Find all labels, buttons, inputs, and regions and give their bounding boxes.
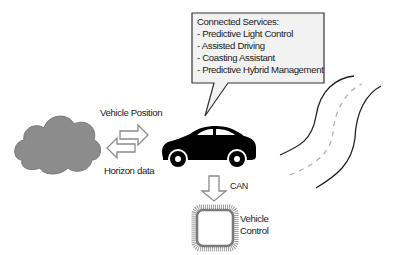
horizon-data-label: Horizon data bbox=[104, 165, 154, 176]
callout-item-coasting-assistant: - Coasting Assistant bbox=[197, 52, 325, 64]
callout-item-predictive-light-control: - Predictive Light Control bbox=[197, 28, 325, 40]
vehicle-control-label: Vehicle Control bbox=[240, 213, 269, 237]
cloud-icon bbox=[15, 116, 101, 174]
connected-services-callout: Connected Services: - Predictive Light C… bbox=[197, 16, 325, 76]
callout-item-assisted-driving: - Assisted Driving bbox=[197, 40, 325, 52]
callout-item-predictive-hybrid-management: - Predictive Hybrid Management bbox=[197, 64, 325, 76]
car-icon bbox=[162, 126, 256, 168]
microchip-icon bbox=[194, 207, 236, 249]
can-label: CAN bbox=[230, 181, 248, 191]
callout-title: Connected Services: bbox=[197, 16, 325, 28]
down-arrow-icon bbox=[202, 176, 226, 201]
vehicle-control-line2: Control bbox=[240, 225, 269, 237]
bidirectional-arrows-icon bbox=[107, 125, 148, 158]
winding-road-icon bbox=[280, 76, 381, 188]
vehicle-control-line1: Vehicle bbox=[240, 213, 269, 225]
vehicle-position-label: Vehicle Position bbox=[100, 107, 162, 118]
